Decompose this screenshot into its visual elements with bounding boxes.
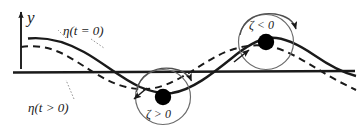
eta-t-equals-0-label: η(t = 0) [63,24,104,37]
eta-t-equals-0-curve [28,38,356,94]
eta-tgt0-leader-line [66,80,74,99]
particle-trough-dot [155,89,171,105]
eta-t-greater-0-label: η(t > 0) [28,101,69,114]
wave-diagram-canvas [0,0,361,138]
particle-crest-dot [258,34,274,50]
zeta-greater-0-label: ζ > 0 [146,108,171,120]
wave-kinematics-figure: y η(t = 0) η(t > 0) ζ > 0 ζ < 0 [0,0,361,138]
eta-t-greater-0-curve [21,45,356,90]
y-axis-label: y [27,9,35,26]
eta-t0-leader-line-2 [91,39,104,48]
zeta-less-0-label: ζ < 0 [249,19,274,31]
